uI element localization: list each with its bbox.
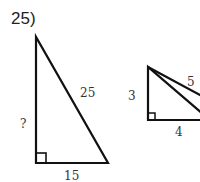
base-label: 15: [64, 169, 79, 182]
hypotenuse-label: 25: [80, 86, 95, 100]
right-angle-marker: [36, 153, 46, 163]
large-right-triangle: ? 25 15: [20, 37, 108, 182]
vertical-side-label: ?: [20, 117, 26, 131]
hypotenuse-label: 5: [187, 75, 195, 89]
diagram-canvas: ? 25 15 3 5 4: [0, 0, 200, 182]
vertical-side-label: 3: [128, 89, 136, 103]
small-right-triangle: 3 5 4: [128, 67, 200, 139]
base-label: 4: [175, 125, 183, 139]
